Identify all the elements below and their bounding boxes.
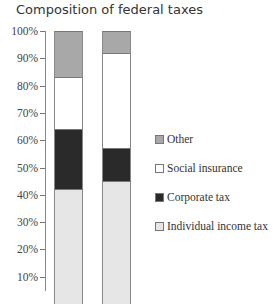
stacked-bar-1 xyxy=(54,31,83,291)
y-tick xyxy=(40,140,45,141)
y-tick-label: 20% xyxy=(0,243,38,255)
legend-item-individual-income-tax: Individual income tax xyxy=(155,220,268,232)
y-tick xyxy=(40,86,45,87)
bar-segment-corporate-tax xyxy=(54,129,83,189)
legend-item-social-insurance: Social insurance xyxy=(155,162,243,174)
y-tick xyxy=(40,195,45,196)
y-tick xyxy=(40,249,45,250)
y-axis-line xyxy=(45,31,46,291)
bar-segment-social-insurance xyxy=(102,53,131,149)
y-tick xyxy=(40,168,45,169)
y-tick-label: 40% xyxy=(0,189,38,201)
legend-item-other: Other xyxy=(155,133,193,145)
legend-label: Social insurance xyxy=(167,162,243,174)
y-tick-label: 80% xyxy=(0,80,38,92)
chart-title: Composition of federal taxes xyxy=(16,2,203,17)
y-tick-label: 30% xyxy=(0,216,38,228)
y-tick-label: 100% xyxy=(0,25,38,37)
y-tick-label: 10% xyxy=(0,271,38,283)
bar-segment-individual-income-tax xyxy=(54,189,83,304)
legend-label: Corporate tax xyxy=(167,191,230,203)
y-tick-label: 70% xyxy=(0,107,38,119)
bar-segment-corporate-tax xyxy=(102,148,131,181)
stacked-bar-2 xyxy=(102,31,131,291)
y-tick xyxy=(40,113,45,114)
legend-item-corporate-tax: Corporate tax xyxy=(155,191,230,203)
bar-segment-other xyxy=(54,31,83,77)
bar-segment-individual-income-tax xyxy=(102,181,131,304)
legend-swatch-icon xyxy=(155,222,164,231)
legend-label: Individual income tax xyxy=(167,220,268,232)
legend-swatch-icon xyxy=(155,164,164,173)
bar-segment-social-insurance xyxy=(54,77,83,129)
legend-swatch-icon xyxy=(155,135,164,144)
y-tick-label: 50% xyxy=(0,162,38,174)
y-tick xyxy=(40,277,45,278)
y-tick xyxy=(40,31,45,32)
y-tick xyxy=(40,222,45,223)
bar-segment-other xyxy=(102,31,131,53)
legend-swatch-icon xyxy=(155,193,164,202)
y-tick-label: 90% xyxy=(0,52,38,64)
y-tick xyxy=(40,58,45,59)
legend-label: Other xyxy=(167,133,193,145)
y-tick-label: 60% xyxy=(0,134,38,146)
